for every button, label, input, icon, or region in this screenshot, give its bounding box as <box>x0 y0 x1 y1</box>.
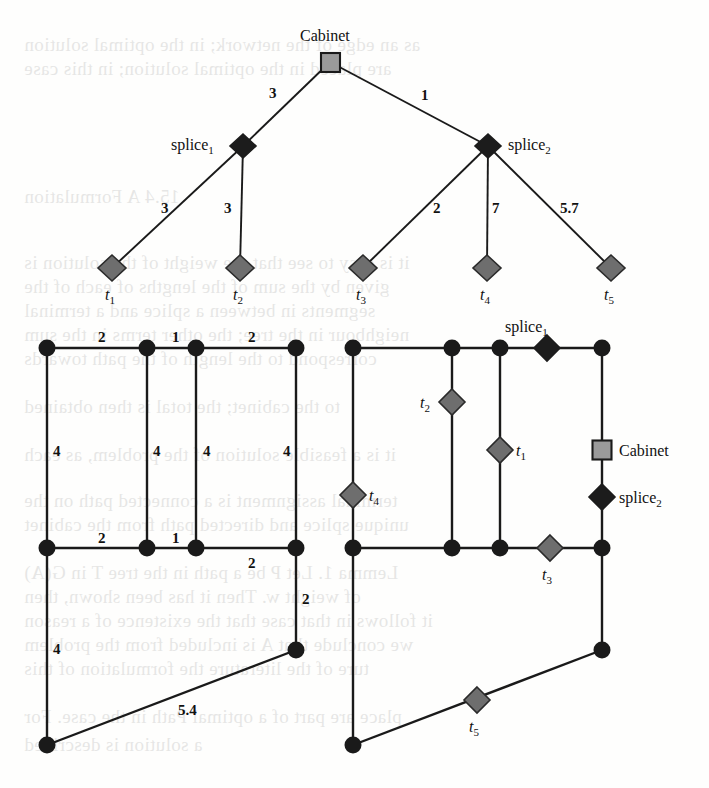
left-edge-weight: 5.4 <box>178 703 197 718</box>
tree-edge-weight-splice2-t3: 2 <box>433 201 441 216</box>
right-label-splice2: splice2 <box>619 490 662 509</box>
right-node[interactable] <box>444 540 461 557</box>
tree-terminal-label-t4: t4 <box>480 287 490 306</box>
tree-cabinet-label: Cabinet <box>300 28 350 44</box>
right-label-t1: t1 <box>516 443 526 462</box>
tree-edge-weight-Cabinet-splice1: 3 <box>269 86 277 101</box>
figure-vector <box>0 0 709 788</box>
tree-edges <box>112 62 611 268</box>
left-node[interactable] <box>288 642 305 659</box>
left-node[interactable] <box>288 540 305 557</box>
right-network-placed-devices <box>340 335 615 713</box>
right-label-t5: t5 <box>469 719 479 738</box>
left-edge-weight: 1 <box>172 330 180 345</box>
right-node[interactable] <box>345 340 362 357</box>
tree-edge-weight-splice2-t4: 7 <box>492 201 500 216</box>
left-network-nodes <box>39 340 305 754</box>
left-edge-weight: 2 <box>98 330 106 345</box>
left-node[interactable] <box>188 340 205 357</box>
left-edge-weight: 4 <box>53 642 61 657</box>
left-edge-weight: 4 <box>153 444 161 459</box>
left-edge-weight: 2 <box>302 592 310 607</box>
left-node[interactable] <box>39 737 56 754</box>
left-edge-weight: 2 <box>98 531 106 546</box>
tree-edge-weight-Cabinet-splice2: 1 <box>421 88 429 103</box>
right-label-t2: t2 <box>420 395 430 414</box>
tree-terminal-t2[interactable] <box>226 255 254 281</box>
right-network-edges <box>353 348 602 745</box>
right-terminal-node-t3[interactable] <box>537 535 563 561</box>
left-node[interactable] <box>139 340 156 357</box>
right-terminal-node-t5[interactable] <box>464 687 490 713</box>
right-label-splice1: splice1 <box>505 319 548 338</box>
right-terminal-node-t1[interactable] <box>487 437 513 463</box>
tree-splice1-label: splice1 <box>171 137 214 156</box>
right-cabinet-node[interactable] <box>593 441 612 460</box>
left-node[interactable] <box>139 540 156 557</box>
right-splice-node-splice2[interactable] <box>589 484 615 510</box>
tree-edge-weight-splice2-t5: 5.7 <box>560 201 579 216</box>
left-edge-weight: 4 <box>53 444 61 459</box>
tree-edge-weight-splice1-t1: 3 <box>161 201 169 216</box>
left-edge-weight: 2 <box>248 330 256 345</box>
left-edge-weight: 2 <box>248 556 256 571</box>
tree-terminal-label-t5: t5 <box>604 287 614 306</box>
right-terminal-node-t2[interactable] <box>439 389 465 415</box>
tree-cabinet-node[interactable] <box>321 53 340 72</box>
right-node[interactable] <box>594 642 611 659</box>
tree-terminal-label-t2: t2 <box>233 287 243 306</box>
left-edge-weight: 1 <box>172 531 180 546</box>
right-label-Cabinet: Cabinet <box>619 443 669 459</box>
right-label-t4: t4 <box>369 488 379 507</box>
right-node[interactable] <box>492 340 509 357</box>
right-label-t3: t3 <box>542 567 552 586</box>
left-node[interactable] <box>288 340 305 357</box>
left-network-edges <box>47 348 296 745</box>
right-node[interactable] <box>492 540 509 557</box>
left-node[interactable] <box>188 540 205 557</box>
right-node[interactable] <box>345 540 362 557</box>
right-node[interactable] <box>345 737 362 754</box>
tree-terminal-label-t3: t3 <box>356 287 366 306</box>
figure-canvas: as an edge of the network; in the optima… <box>0 0 709 788</box>
right-node[interactable] <box>594 340 611 357</box>
left-node[interactable] <box>39 340 56 357</box>
right-splice-node-splice1[interactable] <box>534 335 560 361</box>
left-edge-weight: 4 <box>203 444 211 459</box>
right-terminal-node-t4[interactable] <box>340 482 366 508</box>
tree-terminal-t4[interactable] <box>473 255 501 281</box>
right-node[interactable] <box>594 540 611 557</box>
tree-splice2-label: splice2 <box>508 137 551 156</box>
right-node[interactable] <box>444 340 461 357</box>
tree-terminal-label-t1: t1 <box>105 287 115 306</box>
left-node[interactable] <box>39 540 56 557</box>
tree-edge-weight-splice1-t2: 3 <box>224 201 232 216</box>
tree-nodes <box>98 53 625 281</box>
left-edge-weight: 4 <box>283 444 291 459</box>
